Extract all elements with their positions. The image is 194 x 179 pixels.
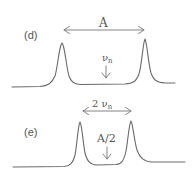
- splitting-label-prefix: 2: [92, 98, 102, 109]
- panel-e: (e) 2 νn A/2: [13, 98, 185, 167]
- panel-d-label: (d): [24, 29, 37, 41]
- spectrum-curve-d: [12, 39, 175, 87]
- center-label-a-half: A/2: [96, 132, 116, 145]
- splitting-label-sub: n: [108, 103, 113, 111]
- svg-text:νn: νn: [102, 52, 113, 65]
- spectrum-diagram: (d) A νn (e) 2 νn A/2: [0, 0, 194, 179]
- panel-e-label: (e): [24, 126, 37, 138]
- splitting-label-a: A: [98, 16, 108, 30]
- center-label-sub: n: [108, 57, 113, 65]
- panel-d: (d) A νn: [12, 16, 175, 87]
- svg-text:2 νn: 2 νn: [92, 98, 113, 111]
